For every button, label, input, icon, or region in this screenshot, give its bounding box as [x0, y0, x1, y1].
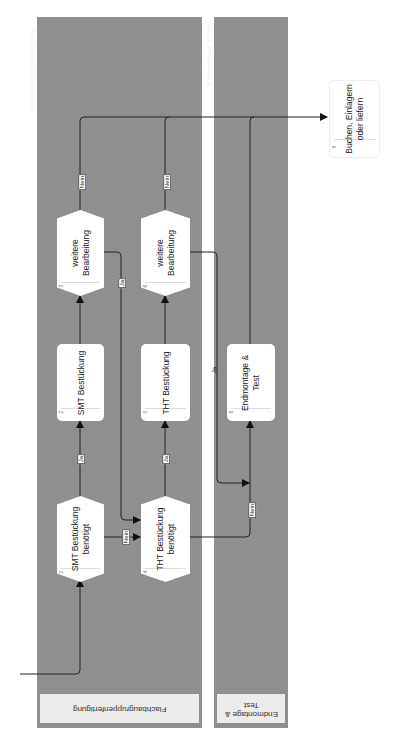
node-4-tht-bestueckung-benoetigt[interactable]: 4 THT Bestückung benötigt — [141, 496, 190, 582]
node-divider — [145, 282, 186, 283]
edge-3-9 — [80, 117, 327, 210]
node-number: 8 — [228, 411, 234, 414]
node-number: 6 — [142, 285, 148, 288]
edge-label-1-2-ja: Ja — [77, 454, 85, 464]
node-label: weitere Bearbeitung — [70, 230, 91, 276]
node-number: 3 — [58, 285, 64, 288]
edge-start-1 — [20, 580, 80, 674]
edge-label-3-9-nein: Nein — [78, 174, 86, 190]
node-label: Endmontage & Test — [240, 354, 261, 410]
node-9-buchen-einlagern-liefern[interactable]: 9 Buchen, Einlagern oder liefern — [329, 80, 380, 158]
edge-label-3-4-ja: Ja — [118, 278, 126, 288]
edge-3-4 — [104, 252, 140, 520]
edge-6-9 — [165, 117, 169, 210]
node-3-weitere-bearbeitung[interactable]: 3 weitere Bearbeitung — [57, 210, 104, 296]
edge-label-6-9-nein: Nein — [163, 174, 171, 190]
node-label: SMT Bestückung — [75, 350, 86, 415]
node-number: 1 — [58, 571, 64, 574]
edge-label-1-4-nein: Nein — [122, 529, 130, 545]
node-5-tht-bestueckung[interactable]: 5 THT Bestückung — [141, 344, 190, 421]
node-label: Buchen, Einlagern oder liefern — [344, 84, 365, 153]
node-6-weitere-bearbeitung[interactable]: 6 weitere Bearbeitung — [141, 210, 190, 296]
edge-label-4-5-ja: Ja — [162, 454, 170, 464]
node-number: 4 — [142, 571, 148, 574]
node-divider — [61, 282, 100, 283]
node-label: THT Bestückung benötigt — [155, 507, 176, 570]
node-1-smt-bestueckung-benoetigt[interactable]: 1 SMT Bestückung benötigt — [57, 496, 104, 582]
node-number: 9 — [331, 146, 337, 149]
edge-label-4-8-nein: Nein — [248, 502, 256, 518]
node-8-endmontage-test[interactable]: 8 Endmontage & Test — [227, 344, 275, 421]
node-label: SMT Bestückung benötigt — [70, 507, 91, 572]
node-number: 5 — [142, 411, 148, 414]
edge-4-8 — [190, 421, 250, 537]
edge-label-6-8-ja: Ja — [211, 366, 217, 374]
node-label: THT Bestückung — [160, 351, 171, 414]
node-number: 2 — [58, 411, 64, 414]
node-2-smt-bestueckung[interactable]: 2 SMT Bestückung — [57, 344, 104, 421]
node-label: weitere Bearbeitung — [155, 230, 176, 276]
edge-8-9 — [250, 117, 254, 344]
